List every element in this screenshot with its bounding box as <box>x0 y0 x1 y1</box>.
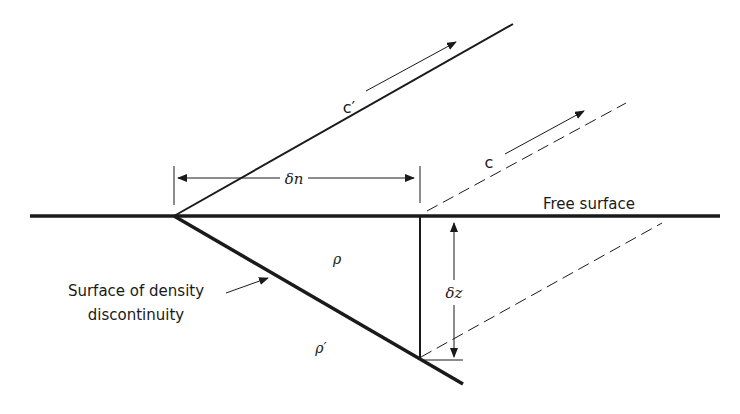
c-label: c <box>485 153 494 172</box>
density-discontinuity-diagram: δn δz c′ c Free surface ρ ρ′ Surface of … <box>0 0 740 414</box>
c-prime-ray <box>174 24 513 216</box>
rho-label: ρ <box>332 251 342 267</box>
density-label-leader-arrow <box>226 278 268 293</box>
delta-z-label: δz <box>446 284 463 302</box>
c-prime-direction-arrow <box>366 42 456 91</box>
density-surface-label-line1: Surface of density <box>68 282 204 300</box>
c-prime-label: c′ <box>343 98 356 117</box>
density-surface-label-line2: discontinuity <box>88 306 185 324</box>
delta-n-label: δn <box>285 170 304 188</box>
free-surface-label: Free surface <box>543 195 635 213</box>
rho-prime-label: ρ′ <box>314 340 327 356</box>
